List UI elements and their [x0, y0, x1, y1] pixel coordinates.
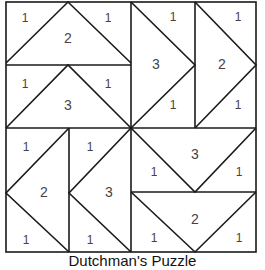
label-small: 1: [22, 77, 29, 91]
label-big: 3: [191, 146, 199, 162]
label-big: 2: [40, 184, 48, 200]
label-small: 1: [236, 165, 243, 179]
label-small: 1: [235, 10, 242, 24]
label-small: 1: [23, 233, 30, 247]
label-big: 2: [218, 56, 226, 72]
label-small: 1: [151, 231, 158, 245]
label-small: 1: [170, 10, 177, 24]
label-small: 1: [151, 165, 158, 179]
bl-right-triangle: [69, 128, 131, 252]
label-small: 1: [235, 98, 242, 112]
label-small: 1: [23, 140, 30, 154]
label-big: 2: [191, 211, 199, 227]
tr-left-triangle: [131, 2, 195, 128]
bl-left-triangle: [6, 128, 69, 252]
label-small: 1: [87, 140, 94, 154]
label-small: 1: [105, 11, 112, 25]
label-small: 1: [236, 231, 243, 245]
diagram-caption: Dutchman's Puzzle: [0, 251, 265, 270]
label-big: 2: [64, 30, 72, 46]
label-big: 3: [64, 97, 72, 113]
label-big: 3: [152, 56, 160, 72]
label-small: 1: [170, 98, 177, 112]
label-big: 3: [105, 184, 113, 200]
label-small: 1: [87, 233, 94, 247]
label-small: 1: [22, 11, 29, 25]
label-small: 1: [105, 77, 112, 91]
